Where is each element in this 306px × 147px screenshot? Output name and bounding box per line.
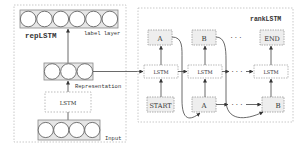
lstm-ellipsis: · · · xyxy=(231,68,242,76)
label-layer-neuron xyxy=(20,11,36,27)
input-layer xyxy=(38,120,100,140)
replstm-lstm-label: LSTM xyxy=(60,100,77,106)
label-layer-neuron xyxy=(53,11,69,27)
output-end-label: END xyxy=(264,35,280,43)
representation-layer-neuron xyxy=(61,64,77,80)
output-ellipsis: · · · xyxy=(230,34,241,42)
representation-layer-neuron xyxy=(77,64,93,80)
output-a-label: A xyxy=(156,35,163,43)
ranklstm-cell-3-label: LSTM xyxy=(263,69,278,75)
input-b-label: B xyxy=(275,102,280,110)
label-layer-neuron xyxy=(86,11,102,27)
label-layer-neuron xyxy=(102,11,118,27)
label-layer-label: label layer xyxy=(84,30,120,37)
ranklstm-cell-1-label: LSTM xyxy=(153,69,168,75)
input-layer-neuron xyxy=(69,122,84,137)
ranklstm-panel: rankLSTM A B · · · END LSTM LSTM · · · L… xyxy=(138,8,293,122)
ranklstm-cell-2-label: LSTM xyxy=(197,69,212,75)
input-layer-neuron xyxy=(85,122,100,137)
representation-layer-neuron xyxy=(44,64,60,80)
ranklstm-title: rankLSTM xyxy=(250,16,281,23)
input-a-label: A xyxy=(200,102,207,110)
representation-label: Representation xyxy=(75,83,121,90)
label-layer-neuron xyxy=(69,11,85,27)
input-layer-neuron xyxy=(38,122,53,137)
input-box-b xyxy=(262,97,284,112)
diagram: repLSTM label layer Representation LSTM … xyxy=(0,0,306,147)
label-layer xyxy=(20,10,118,28)
input-layer-neuron xyxy=(54,122,69,137)
input-ellipsis: · · · xyxy=(231,101,242,109)
input-start-label: START xyxy=(149,102,172,110)
input-label: Input xyxy=(105,135,122,142)
representation-layer xyxy=(44,63,93,80)
replstm-title: repLSTM xyxy=(25,32,57,40)
label-layer-neuron xyxy=(37,11,53,27)
output-b-label: B xyxy=(201,35,206,43)
replstm-panel: repLSTM label layer Representation LSTM … xyxy=(14,5,126,142)
